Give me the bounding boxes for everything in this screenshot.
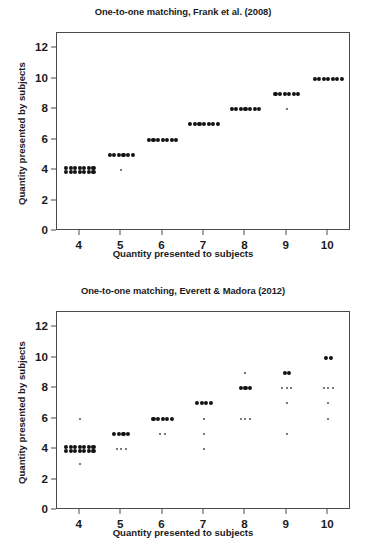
scatter-point bbox=[282, 92, 286, 96]
scatter-point bbox=[193, 122, 197, 126]
x-tick-mark bbox=[120, 230, 121, 235]
y-tick-label: 8 bbox=[8, 381, 48, 393]
scatter-point bbox=[239, 386, 243, 390]
scatter-point bbox=[203, 448, 205, 450]
scatter-point bbox=[195, 401, 199, 405]
scatter-point bbox=[78, 449, 82, 453]
scatter-point bbox=[249, 418, 251, 420]
scatter-point bbox=[240, 418, 242, 420]
scatter-point bbox=[112, 432, 116, 436]
plot-area bbox=[57, 33, 349, 229]
scatter-point bbox=[78, 170, 82, 174]
scatter-point bbox=[322, 77, 326, 81]
scatter-point bbox=[324, 356, 328, 360]
y-tick-label: 10 bbox=[8, 72, 48, 84]
scatter-point bbox=[287, 371, 291, 375]
scatter-point bbox=[317, 77, 321, 81]
chart-title: One-to-one matching, Everett & Madora (2… bbox=[0, 285, 366, 297]
x-tick-mark bbox=[161, 509, 162, 514]
scatter-point bbox=[126, 432, 130, 436]
scatter-point bbox=[209, 401, 213, 405]
scatter-point bbox=[64, 170, 68, 174]
scatter-point bbox=[165, 417, 169, 421]
y-tick-mark bbox=[51, 77, 56, 78]
scatter-point bbox=[286, 433, 288, 435]
scatter-point bbox=[273, 92, 277, 96]
y-tick-mark bbox=[51, 199, 56, 200]
scatter-point bbox=[79, 463, 81, 465]
x-tick-mark bbox=[244, 230, 245, 235]
x-axis-title: Quantity presented to subjects bbox=[0, 248, 366, 259]
scatter-point bbox=[73, 449, 77, 453]
scatter-point bbox=[126, 153, 130, 157]
scatter-point bbox=[327, 402, 329, 404]
x-tick-mark bbox=[285, 230, 286, 235]
scatter-point bbox=[281, 387, 283, 389]
scatter-point bbox=[125, 448, 127, 450]
scatter-point bbox=[73, 170, 77, 174]
scatter-point bbox=[204, 401, 208, 405]
y-tick-label: 4 bbox=[8, 163, 48, 175]
scatter-point bbox=[117, 153, 121, 157]
scatter-point bbox=[165, 138, 169, 142]
scatter-point bbox=[174, 138, 178, 142]
scatter-point bbox=[170, 417, 174, 421]
scatter-point bbox=[151, 138, 155, 142]
scatter-point bbox=[203, 418, 205, 420]
scatter-point bbox=[64, 449, 68, 453]
scatter-point bbox=[286, 108, 288, 110]
x-tick-mark bbox=[203, 509, 204, 514]
x-tick-mark bbox=[161, 230, 162, 235]
scatter-point bbox=[328, 356, 332, 360]
y-axis-title: Quantity presented by subjects bbox=[16, 341, 27, 484]
chart-panel-frank-2008: One-to-one matching, Frank et al. (2008)… bbox=[0, 0, 366, 278]
scatter-point bbox=[91, 449, 95, 453]
plot-frame bbox=[56, 311, 350, 509]
scatter-point bbox=[290, 387, 292, 389]
scatter-point bbox=[151, 417, 155, 421]
plot-frame bbox=[56, 32, 350, 230]
y-tick-label: 2 bbox=[8, 194, 48, 206]
chart-title: One-to-one matching, Frank et al. (2008) bbox=[0, 6, 366, 18]
scatter-point bbox=[207, 122, 211, 126]
x-tick-mark bbox=[327, 509, 328, 514]
scatter-point bbox=[331, 77, 335, 81]
y-tick-mark bbox=[51, 230, 56, 231]
y-tick-mark bbox=[51, 448, 56, 449]
scatter-point bbox=[243, 386, 247, 390]
y-tick-label: 12 bbox=[8, 41, 48, 53]
scatter-point bbox=[313, 77, 317, 81]
x-axis-title: Quantity presented to subjects bbox=[0, 527, 366, 538]
y-tick-mark bbox=[51, 509, 56, 510]
scatter-point bbox=[87, 449, 91, 453]
y-tick-label: 12 bbox=[8, 320, 48, 332]
y-axis-title: Quantity presented by subjects bbox=[16, 62, 27, 205]
scatter-point bbox=[282, 371, 286, 375]
plot-area bbox=[57, 312, 349, 508]
scatter-point bbox=[296, 92, 300, 96]
y-tick-label: 0 bbox=[8, 503, 48, 515]
scatter-point bbox=[159, 433, 161, 435]
y-tick-mark bbox=[51, 417, 56, 418]
scatter-point bbox=[211, 122, 215, 126]
scatter-point bbox=[216, 122, 220, 126]
scatter-point bbox=[292, 92, 296, 96]
y-tick-mark bbox=[51, 326, 56, 327]
y-tick-mark bbox=[51, 138, 56, 139]
scatter-point bbox=[147, 138, 151, 142]
scatter-point bbox=[287, 92, 291, 96]
x-tick-mark bbox=[203, 230, 204, 235]
scatter-point bbox=[332, 387, 334, 389]
scatter-point bbox=[188, 122, 192, 126]
scatter-point bbox=[243, 107, 247, 111]
scatter-point bbox=[79, 418, 81, 420]
y-tick-mark bbox=[51, 169, 56, 170]
x-tick-mark bbox=[78, 509, 79, 514]
scatter-point bbox=[200, 401, 204, 405]
y-tick-mark bbox=[51, 108, 56, 109]
scatter-point bbox=[327, 387, 329, 389]
scatter-point bbox=[202, 122, 206, 126]
y-tick-mark bbox=[51, 478, 56, 479]
chart-panel-everett-madora-2012: One-to-one matching, Everett & Madora (2… bbox=[0, 279, 366, 557]
scatter-point bbox=[82, 449, 86, 453]
